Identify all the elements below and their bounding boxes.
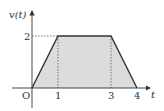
- velocity-time-graph: v(t) t O 2 1 3 4: [0, 0, 164, 111]
- x-tick-1: 1: [55, 90, 61, 101]
- y-tick-2: 2: [24, 31, 30, 42]
- x-axis-label: t: [151, 89, 156, 100]
- x-tick-3: 3: [108, 90, 114, 101]
- origin-label: O: [22, 90, 30, 101]
- area-under-curve: [32, 36, 137, 88]
- y-axis-label: v(t): [9, 9, 27, 20]
- x-tick-4: 4: [134, 90, 140, 101]
